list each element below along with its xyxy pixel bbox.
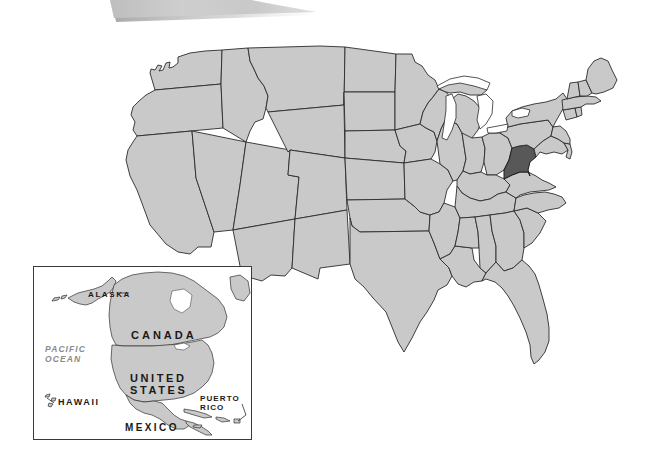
state-florida [482,260,549,364]
inset-label-puerto-rico: PUERTO RICO [200,395,240,413]
lake-huron [477,94,493,129]
map-figure: ALASKA CANADA PACIFIC OCEAN UNITED STATE… [0,0,654,466]
state-kansas [345,158,405,200]
state-washington [150,50,222,90]
inset-label-canada: CANADA [131,329,197,341]
inset-label-mexico: MEXICO [125,422,179,433]
north-america-inset: ALASKA CANADA PACIFIC OCEAN UNITED STATE… [33,266,252,440]
inset-greenland [230,275,250,301]
lake-erie [487,124,508,133]
inset-puerto-rico [234,419,240,423]
inset-aleutian-islands [52,295,67,301]
inset-label-alaska: ALASKA [88,291,131,300]
state-oregon [131,84,223,136]
inset-label-united-states: UNITED STATES [130,372,187,397]
state-new-mexico [292,210,350,279]
state-maine [586,58,617,94]
state-south-dakota [344,92,395,131]
inset-label-pacific-ocean: PACIFIC OCEAN [45,345,86,364]
state-indiana [462,133,485,174]
inset-label-hawaii: HAWAII [58,397,100,407]
